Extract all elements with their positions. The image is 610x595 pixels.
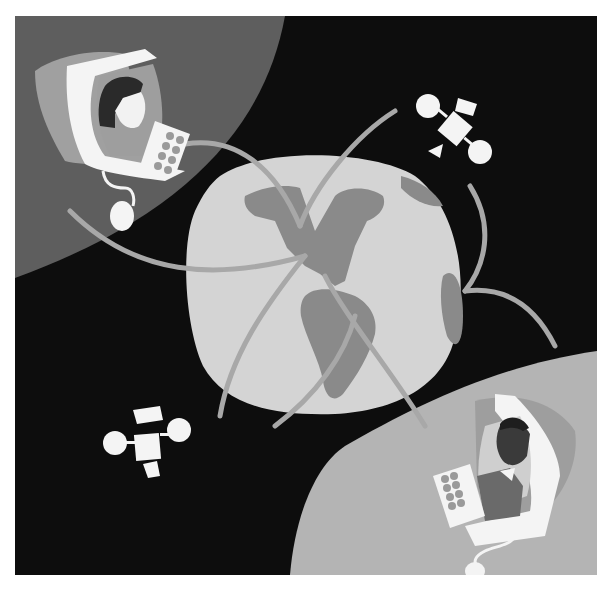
- illustration-canvas: [15, 16, 597, 575]
- illustration-frame: Global online communication illustration: [15, 16, 597, 575]
